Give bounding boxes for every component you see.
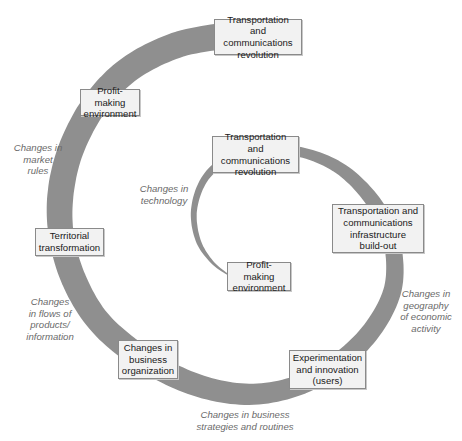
stage-inner-transport-revolution: Transportation and communications revolu… bbox=[212, 136, 299, 173]
annotation-flows: Changes in flows of products/ informatio… bbox=[20, 296, 80, 342]
annotation-strategies: Changes in business strategies and routi… bbox=[185, 409, 305, 432]
stage-inner-profit-making: Profit-making environment bbox=[227, 262, 291, 291]
annotation-technology: Changes in technology bbox=[134, 183, 194, 206]
stage-business-organization: Changes in business organization bbox=[118, 340, 178, 379]
stage-label: Transportation and communications infras… bbox=[338, 205, 418, 251]
stage-territorial-transformation: Territorial transformation bbox=[35, 228, 104, 256]
annotation-market-rules: Changes in market rules bbox=[8, 142, 68, 177]
stage-label: Changes in business organization bbox=[122, 342, 174, 377]
stage-outer-transport-revolution: Transportation and communications revolu… bbox=[214, 19, 302, 55]
stage-label: Transportation and communications revolu… bbox=[216, 131, 295, 177]
stage-label: Experimentation and innovation (users) bbox=[293, 352, 362, 387]
stage-outer-profit-making: Profit-making environment bbox=[80, 89, 140, 116]
stage-experimentation-innovation: Experimentation and innovation (users) bbox=[289, 350, 366, 389]
stage-infrastructure-build-out: Transportation and communications infras… bbox=[332, 204, 424, 253]
stage-label: Profit-making environment bbox=[84, 85, 137, 120]
stage-label: Profit-making environment bbox=[231, 259, 287, 294]
stage-label: Territorial transformation bbox=[39, 230, 100, 253]
stage-label: Transportation and communications revolu… bbox=[218, 14, 298, 60]
annotation-geography: Changes in geography of economic activit… bbox=[394, 288, 458, 334]
